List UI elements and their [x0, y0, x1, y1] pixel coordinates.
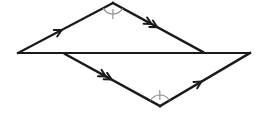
geometry-figure — [0, 0, 271, 127]
geometry-canvas — [0, 0, 271, 127]
